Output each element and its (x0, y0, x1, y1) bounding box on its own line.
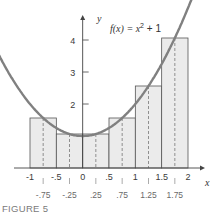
midpoint-label: -.25 (62, 190, 77, 200)
x-tick-label: -.5 (51, 172, 62, 182)
x-axis-arrow-icon (200, 166, 205, 171)
riemann-sum-chart: 234-1-.50.511.52-.75-.25.25.751.251.75 y… (0, 0, 218, 200)
y-tick-label: 2 (70, 100, 75, 110)
y-tick-label: 4 (70, 36, 75, 46)
midpoint-label: .25 (90, 190, 102, 200)
midpoint-label: -.75 (36, 190, 51, 200)
x-tick-label: -1 (26, 172, 34, 182)
figure-caption: FIGURE 5 (2, 203, 48, 214)
x-tick-label: 1 (133, 172, 138, 182)
x-axis-label: x (204, 177, 210, 188)
x-tick-label: 1.5 (155, 172, 168, 182)
midpoint-label: 1.25 (140, 190, 157, 200)
midpoint-label: 1.75 (167, 190, 184, 200)
y-tick-label: 3 (70, 68, 75, 78)
midpoint-label: .75 (116, 190, 128, 200)
function-label: f(x) = x2 + 1 (110, 22, 161, 35)
x-tick-label: 2 (185, 172, 190, 182)
x-tick-label: 0 (80, 172, 85, 182)
y-axis-label: y (96, 13, 102, 24)
y-axis-arrow-icon (80, 15, 85, 20)
x-tick-label: .5 (105, 172, 113, 182)
